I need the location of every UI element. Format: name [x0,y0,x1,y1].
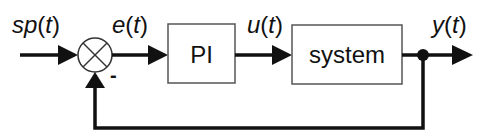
setpoint-label: sp(t) [12,11,60,38]
control-arrow [235,45,292,65]
error-arrow [112,45,168,65]
arrowhead-icon [58,45,78,65]
error-label: e(t) [112,11,148,38]
pi-feedback-diagram: PI system - sp(t) e(t) u(t) y(t) [0,0,484,138]
arrowhead-icon [85,72,105,88]
control-label: u(t) [247,11,283,38]
arrowhead-icon [148,45,168,65]
pi-controller-block: PI [168,24,235,83]
summing-junction [78,38,112,72]
output-label: y(t) [430,11,467,38]
system-block: system [292,25,402,84]
output-arrow [402,45,473,65]
system-label: system [309,41,385,68]
pi-label: PI [190,41,213,68]
feedback-sign: - [110,64,117,86]
arrowhead-icon [452,45,473,65]
arrowhead-icon [272,45,292,65]
setpoint-arrow [20,45,78,65]
